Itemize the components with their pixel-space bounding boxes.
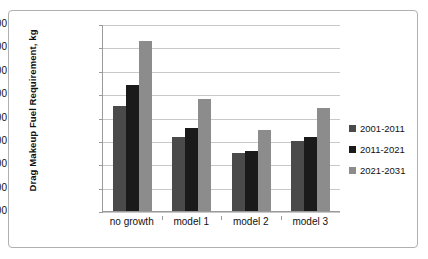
plot-area: 7200070000680006600064000620006000058000… <box>102 25 340 212</box>
bar-group <box>232 25 271 211</box>
bar <box>291 141 304 211</box>
x-tick-label: model 3 <box>281 216 341 236</box>
bar <box>139 41 152 211</box>
y-tick-label: 60000 <box>0 158 7 169</box>
x-tick-mark <box>221 216 222 220</box>
bar <box>113 106 126 211</box>
chart-legend: 2001-20112011-20212021-2031 <box>349 123 405 186</box>
bar <box>258 130 271 211</box>
bar <box>126 85 139 211</box>
bar <box>232 153 245 211</box>
y-tick-label: 58000 <box>0 182 7 193</box>
y-tick-label: 64000 <box>0 112 7 123</box>
x-tick-label: model 2 <box>221 216 281 236</box>
y-tick-label: 56000 <box>0 205 7 216</box>
legend-swatch-icon <box>349 167 356 174</box>
bar <box>317 108 330 211</box>
y-tick-mark <box>99 212 103 213</box>
bar <box>198 99 211 211</box>
y-tick-label: 68000 <box>0 65 7 76</box>
legend-label: 2001-2011 <box>360 123 405 134</box>
legend-item: 2021-2031 <box>349 165 405 176</box>
y-tick-label: 72000 <box>0 18 7 29</box>
bar <box>172 137 185 211</box>
chart-frame: Drag Makeup Fuel Requirement, kg 7200070… <box>8 10 418 248</box>
x-axis-tick-labels: no growthmodel 1model 2model 3 <box>102 216 340 236</box>
legend-swatch-icon <box>349 125 356 132</box>
bar <box>185 128 198 211</box>
legend-item: 2011-2021 <box>349 144 405 155</box>
legend-label: 2011-2021 <box>360 144 405 155</box>
legend-label: 2021-2031 <box>360 165 405 176</box>
y-tick-label: 70000 <box>0 41 7 52</box>
legend-item: 2001-2011 <box>349 123 405 134</box>
bar-groups <box>103 25 340 211</box>
y-tick-label: 62000 <box>0 135 7 146</box>
y-tick-label: 66000 <box>0 88 7 99</box>
bar-group <box>113 25 152 211</box>
y-axis-title: Drag Makeup Fuel Requirement, kg <box>27 16 38 206</box>
x-tick-mark <box>162 216 163 220</box>
legend-swatch-icon <box>349 146 356 153</box>
bar <box>304 137 317 211</box>
bar <box>245 151 258 211</box>
x-tick-label: model 1 <box>162 216 222 236</box>
gridline <box>103 212 340 213</box>
x-tick-label: no growth <box>102 216 162 236</box>
bar-group <box>172 25 211 211</box>
bar-group <box>291 25 330 211</box>
x-tick-mark <box>281 216 282 220</box>
